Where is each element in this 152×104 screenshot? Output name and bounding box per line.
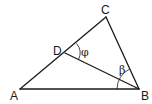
label-point-a: A: [10, 89, 18, 103]
label-angle-phi: φ: [81, 46, 89, 59]
label-point-b: B: [141, 89, 149, 103]
label-point-d: D: [53, 44, 62, 58]
label-angle-beta: β: [119, 64, 125, 77]
segment-db: [65, 53, 139, 89]
segment-bc: [106, 17, 139, 89]
triangle-diagram: C D A B φ β: [0, 0, 152, 104]
label-point-c: C: [101, 3, 110, 17]
segment-ac: [20, 17, 106, 89]
angle-arc-phi: [77, 43, 81, 59]
